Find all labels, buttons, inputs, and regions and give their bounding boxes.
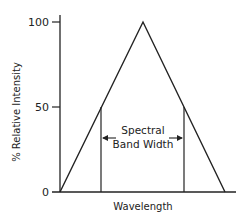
annotation-line-1: Spectral [121,124,164,136]
tick-label-0: 0 [42,186,49,199]
tick-label-50: 50 [35,101,49,114]
intensity-curve [60,22,225,192]
spectral-bandwidth-diagram: 100 50 0 % Relative Intensity Wavelength… [0,0,249,218]
annotation-line-2: Band Width [113,138,174,150]
tick-label-100: 100 [28,16,49,29]
y-axis-label: % Relative Intensity [11,62,22,162]
x-axis-label: Wavelength [113,201,172,212]
